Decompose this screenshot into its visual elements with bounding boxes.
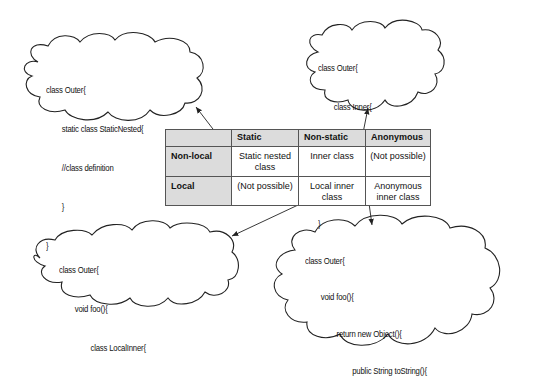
code-anonymous: class Outer{ void foo(){ return new Obje… [305, 230, 434, 379]
cell-anonymous-inner: Anonymous inner class [366, 177, 431, 206]
row-header-local: Local [166, 177, 232, 206]
code-line: class LocalInner{ [59, 342, 158, 355]
code-line: return new Object(){ [305, 328, 434, 340]
cell-inner: Inner class [299, 147, 366, 177]
table-corner [166, 130, 232, 147]
table-header-row: Static Non-static Anonymous [166, 130, 431, 147]
code-line: class Inner{ [318, 101, 386, 114]
code-line: class Outer{ [318, 62, 386, 75]
table-row: Non-local Static nested class Inner clas… [166, 147, 431, 177]
code-local-inner: class Outer{ void foo(){ class LocalInne… [59, 238, 158, 379]
cell-nonlocal-anonymous: (Not possible) [366, 147, 431, 177]
code-line: class Outer{ [46, 84, 143, 97]
code-line: static class StaticNested{ [46, 123, 143, 136]
cell-static-nested: Static nested class [232, 147, 299, 177]
code-line: class Outer{ [59, 264, 158, 277]
code-static-nested: class Outer{ static class StaticNested{ … [46, 58, 143, 266]
column-header-static: Static [232, 130, 299, 147]
cell-local-static: (Not possible) [232, 177, 299, 206]
code-line: //class definition [46, 162, 143, 175]
code-line: class Outer{ [305, 255, 434, 267]
code-line: public String toString(){ [305, 365, 434, 377]
code-line: void foo(){ [59, 303, 158, 316]
row-header-non-local: Non-local [166, 147, 232, 177]
cell-local-inner: Local inner class [299, 177, 366, 206]
code-line: void foo(){ [305, 291, 434, 303]
column-header-anonymous: Anonymous [366, 130, 431, 147]
code-line: } [46, 201, 143, 214]
column-header-non-static: Non-static [299, 130, 366, 147]
nested-class-table: Static Non-static Anonymous Non-local St… [165, 129, 431, 206]
table-row: Local (Not possible) Local inner class A… [166, 177, 431, 206]
